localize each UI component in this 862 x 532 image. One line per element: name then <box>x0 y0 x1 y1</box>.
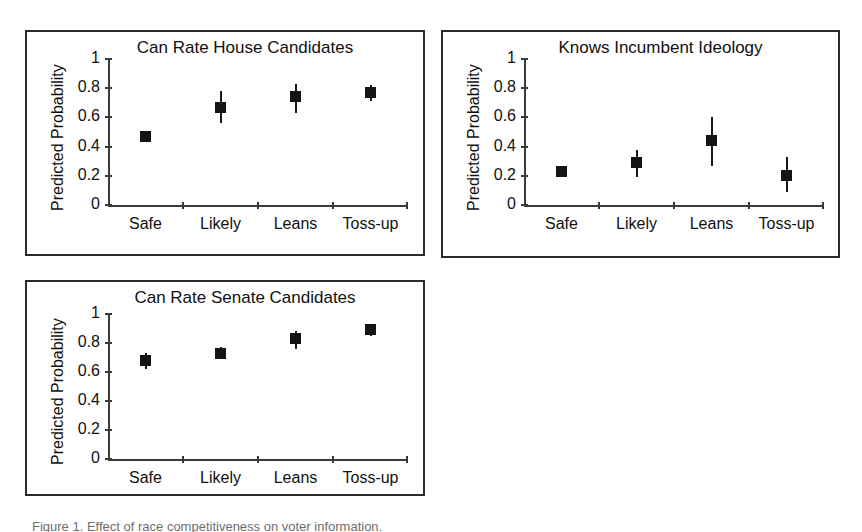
chart-panel-1: Can Rate House CandidatesPredicted Proba… <box>25 30 425 256</box>
y-tick-mark <box>521 87 528 89</box>
plot-area: 10.80.60.40.20SafeLikelyLeansToss-up <box>108 314 408 459</box>
y-tick-label: 1 <box>60 49 100 67</box>
y-tick-mark <box>521 116 528 118</box>
y-tick-label: 1 <box>60 304 100 322</box>
data-point-marker <box>781 170 792 181</box>
y-tick-label: 0.2 <box>60 166 100 184</box>
y-tick-label: 0 <box>476 195 516 213</box>
y-tick-label: 0 <box>60 449 100 467</box>
y-tick-label: 0.4 <box>60 137 100 155</box>
data-point-marker <box>706 135 717 146</box>
y-axis-line <box>524 59 526 205</box>
data-point-marker <box>556 166 567 177</box>
x-tick-mark <box>182 202 184 209</box>
x-tick-label-safe: Safe <box>108 215 183 233</box>
x-tick-label-safe: Safe <box>524 215 599 233</box>
x-tick-mark <box>182 456 184 463</box>
x-tick-label-safe: Safe <box>108 469 183 487</box>
y-tick-label: 0.6 <box>476 107 516 125</box>
y-tick-mark <box>105 146 112 148</box>
x-tick-label-leans: Leans <box>258 215 333 233</box>
y-tick-label: 0 <box>60 195 100 213</box>
data-point-marker <box>631 157 642 168</box>
data-point-marker <box>365 87 376 98</box>
x-tick-mark <box>822 202 824 209</box>
x-tick-label-likely: Likely <box>183 469 258 487</box>
y-tick-mark <box>105 116 112 118</box>
y-tick-mark <box>105 458 112 460</box>
x-tick-label-toss-up: Toss-up <box>749 215 824 233</box>
x-tick-mark <box>332 202 334 209</box>
y-tick-mark <box>105 87 112 89</box>
y-tick-label: 0.6 <box>60 362 100 380</box>
y-tick-label: 1 <box>476 49 516 67</box>
data-point-marker <box>290 91 301 102</box>
x-tick-mark <box>257 202 259 209</box>
y-tick-label: 0.2 <box>60 420 100 438</box>
chart-panel-3: Can Rate Senate CandidatesPredicted Prob… <box>25 280 425 496</box>
plot-area: 10.80.60.40.20SafeLikelyLeansToss-up <box>524 59 824 205</box>
x-tick-mark <box>598 202 600 209</box>
data-point-marker <box>140 355 151 366</box>
y-tick-mark <box>105 342 112 344</box>
y-axis-line <box>108 314 110 459</box>
data-point-marker <box>140 131 151 142</box>
x-tick-mark <box>257 456 259 463</box>
y-tick-mark <box>105 175 112 177</box>
y-tick-mark <box>105 371 112 373</box>
y-tick-label: 0.4 <box>60 391 100 409</box>
x-tick-label-likely: Likely <box>183 215 258 233</box>
y-tick-mark <box>105 313 112 315</box>
x-tick-mark <box>748 202 750 209</box>
data-point-marker <box>215 102 226 113</box>
data-point-marker <box>215 348 226 359</box>
y-tick-mark <box>105 204 112 206</box>
x-tick-label-toss-up: Toss-up <box>333 215 408 233</box>
x-tick-mark <box>406 456 408 463</box>
y-tick-label: 0.2 <box>476 166 516 184</box>
y-tick-mark <box>521 146 528 148</box>
x-tick-mark <box>332 456 334 463</box>
y-tick-mark <box>105 400 112 402</box>
y-tick-mark <box>521 204 528 206</box>
x-tick-mark <box>406 202 408 209</box>
y-tick-label: 0.6 <box>60 107 100 125</box>
x-tick-mark <box>673 202 675 209</box>
x-tick-label-toss-up: Toss-up <box>333 469 408 487</box>
data-point-marker <box>365 324 376 335</box>
y-tick-mark <box>521 58 528 60</box>
chart-panel-2: Knows Incumbent IdeologyPredicted Probab… <box>441 30 840 258</box>
y-tick-label: 0.8 <box>60 78 100 96</box>
figure-root: Can Rate House CandidatesPredicted Proba… <box>0 0 862 532</box>
x-tick-label-leans: Leans <box>674 215 749 233</box>
y-tick-label: 0.8 <box>476 78 516 96</box>
x-tick-label-likely: Likely <box>599 215 674 233</box>
plot-area: 10.80.60.40.20SafeLikelyLeansToss-up <box>108 59 408 205</box>
y-tick-mark <box>105 58 112 60</box>
figure-caption: Figure 1. Effect of race competitiveness… <box>32 519 832 532</box>
data-point-marker <box>290 333 301 344</box>
y-tick-mark <box>105 429 112 431</box>
y-axis-line <box>108 59 110 205</box>
y-tick-label: 0.4 <box>476 137 516 155</box>
y-tick-label: 0.8 <box>60 333 100 351</box>
x-tick-label-leans: Leans <box>258 469 333 487</box>
y-tick-mark <box>521 175 528 177</box>
